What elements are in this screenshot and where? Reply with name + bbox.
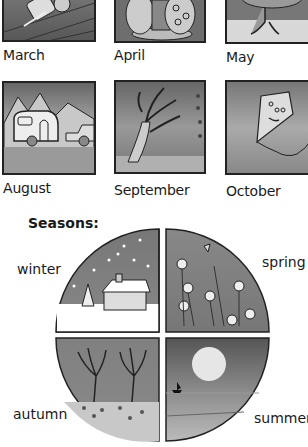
season-label-winter: winter	[17, 261, 61, 277]
bare-trees-icon	[56, 338, 159, 442]
easter-eggs-icon	[116, 0, 206, 43]
caravan-mountains-icon	[4, 83, 94, 173]
season-label-spring: spring	[262, 254, 306, 270]
flowers-icon	[166, 229, 269, 332]
month-label-september: September	[114, 182, 190, 198]
season-label-autumn: autumn	[13, 406, 67, 422]
windy-tree-icon	[116, 82, 204, 172]
month-label-march: March	[3, 47, 45, 63]
month-label-october: October	[226, 183, 281, 199]
snowy-house-icon	[56, 229, 159, 332]
month-label-april: April	[114, 47, 145, 63]
month-panel-october	[225, 80, 308, 175]
month-label-may: May	[226, 49, 254, 65]
month-panel-august	[2, 81, 96, 175]
kite-icon	[227, 82, 308, 173]
month-label-august: August	[3, 180, 51, 196]
month-panel-april	[114, 0, 206, 43]
season-label-summer: summer	[254, 410, 308, 426]
rolling-log-icon	[4, 0, 96, 42]
month-panel-may	[225, 0, 308, 44]
month-panel-september	[114, 80, 206, 174]
tree-meadow-icon	[227, 0, 308, 44]
month-panel-march	[2, 0, 96, 42]
seasons-circle	[54, 226, 270, 447]
